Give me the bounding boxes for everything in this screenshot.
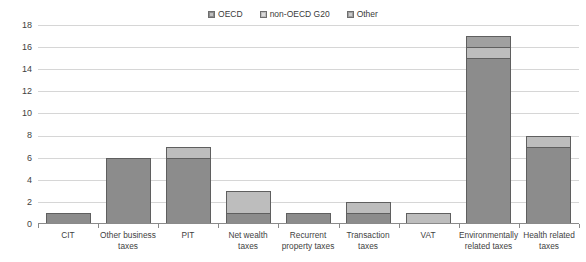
legend-swatch-icon <box>347 11 354 18</box>
legend-item-non-oecd-g20: non-OECD G20 <box>260 9 330 19</box>
bar-segment-other <box>466 36 511 47</box>
bar-segment-oecd <box>526 147 571 224</box>
x-axis-tick-mark <box>158 224 159 228</box>
bar-health-related-taxes[interactable] <box>526 136 571 224</box>
x-axis-tick-mark <box>399 224 400 228</box>
y-axis-tick-label: 14 <box>6 65 32 74</box>
bar-slot <box>459 25 519 224</box>
bar-slot <box>98 25 158 224</box>
bar-slot <box>339 25 399 224</box>
plot-area <box>38 25 579 224</box>
x-axis-tick-label-other-business-taxes: Other business taxes <box>98 230 158 262</box>
x-axis-tick-mark <box>38 224 39 228</box>
y-axis-tick-label: 10 <box>6 109 32 118</box>
bar-segment-oecd <box>106 158 151 224</box>
bar-slot <box>38 25 98 224</box>
bar-environmentally-related-taxes[interactable] <box>466 36 511 224</box>
legend-label: Other <box>357 9 378 19</box>
y-axis-tick-label: 12 <box>6 87 32 96</box>
bar-segment-non-oecd-g20 <box>526 136 571 147</box>
bar-other-business-taxes[interactable] <box>106 158 151 224</box>
y-axis-tick-label: 18 <box>6 21 32 30</box>
x-axis-tick-mark <box>278 224 279 228</box>
bar-slot <box>278 25 338 224</box>
bar-segment-oecd <box>466 58 511 224</box>
x-axis-tick-label-health-related-taxes: Health related taxes <box>519 230 579 262</box>
y-axis-tick-label: 8 <box>6 131 32 140</box>
bar-segment-non-oecd-g20 <box>226 191 271 213</box>
bar-segment-non-oecd-g20 <box>466 47 511 58</box>
x-axis-tick-label-vat: VAT <box>398 230 458 262</box>
x-axis-tick-label-recurrent-property-taxes: Recurrent property taxes <box>278 230 338 262</box>
bar-series-group <box>38 25 579 224</box>
x-axis-tick-mark <box>459 224 460 228</box>
bar-slot <box>158 25 218 224</box>
legend-label: OECD <box>218 9 243 19</box>
y-axis-tick-label: 2 <box>6 198 32 207</box>
x-axis-tick-label-transaction-taxes: Transaction taxes <box>338 230 398 262</box>
y-axis-tick-label: 6 <box>6 154 32 163</box>
x-axis-tick-label-net-wealth-taxes: Net wealth taxes <box>218 230 278 262</box>
bar-segment-oecd <box>166 158 211 224</box>
x-axis-tick-label-environmentally-related-taxes: Environmentally related taxes <box>458 230 519 262</box>
bar-segment-non-oecd-g20 <box>346 202 391 213</box>
legend-item-other: Other <box>347 9 378 19</box>
legend-item-oecd: OECD <box>208 9 243 19</box>
bar-pit[interactable] <box>166 147 211 224</box>
x-axis-tick-mark <box>519 224 520 228</box>
x-axis-tick-mark <box>579 224 580 228</box>
x-axis-tick-mark <box>98 224 99 228</box>
bar-segment-non-oecd-g20 <box>166 147 211 158</box>
bar-transaction-taxes[interactable] <box>346 202 391 224</box>
bar-net-wealth-taxes[interactable] <box>226 191 271 224</box>
x-axis-tick-mark <box>218 224 219 228</box>
y-axis-tick-label: 0 <box>6 220 32 229</box>
x-axis-tick-label-cit: CIT <box>38 230 98 262</box>
bar-slot <box>218 25 278 224</box>
bar-slot <box>519 25 579 224</box>
x-axis-tick-label-pit: PIT <box>158 230 218 262</box>
y-axis-tick-label: 4 <box>6 176 32 185</box>
legend-label: non-OECD G20 <box>270 9 330 19</box>
chart-legend: OECD non-OECD G20 Other <box>0 9 586 19</box>
x-axis-tick-mark <box>339 224 340 228</box>
x-axis-labels: CIT Other business taxes PIT Net wealth … <box>38 230 579 262</box>
y-axis-tick-label: 16 <box>6 43 32 52</box>
legend-swatch-icon <box>208 11 215 18</box>
stacked-bar-chart: OECD non-OECD G20 Other 18 16 14 12 10 8… <box>0 0 586 262</box>
bar-slot <box>399 25 459 224</box>
legend-swatch-icon <box>260 11 267 18</box>
x-axis-ticks <box>38 224 579 229</box>
